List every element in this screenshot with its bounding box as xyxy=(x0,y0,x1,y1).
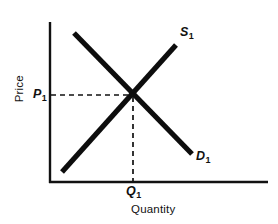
equilibrium-quantity-label: Q1 xyxy=(126,185,141,198)
supply-curve-label-subscript: 1 xyxy=(189,31,194,41)
equilibrium-price-label-letter: P xyxy=(33,87,41,101)
equilibrium-quantity-label-subscript: 1 xyxy=(136,190,141,200)
supply-demand-figure: S1 D1 P1 Q1 Quantity Price xyxy=(0,0,278,224)
equilibrium-price-label-subscript: 1 xyxy=(42,93,47,103)
supply-curve-label: S1 xyxy=(180,26,193,39)
x-axis-title: Quantity xyxy=(131,204,175,216)
demand-curve-label: D1 xyxy=(196,150,210,163)
demand-curve-label-subscript: 1 xyxy=(206,155,211,165)
equilibrium-price-label: P1 xyxy=(33,88,46,101)
demand-curve-label-letter: D xyxy=(196,149,205,163)
equilibrium-quantity-label-letter: Q xyxy=(126,184,136,198)
y-axis-title: Price xyxy=(14,75,26,103)
supply-curve-label-letter: S xyxy=(180,25,188,39)
supply-curve xyxy=(62,45,176,172)
